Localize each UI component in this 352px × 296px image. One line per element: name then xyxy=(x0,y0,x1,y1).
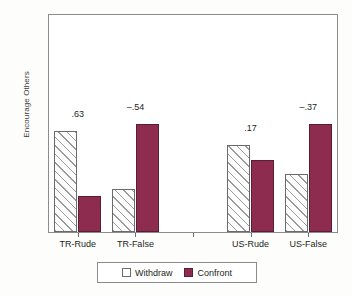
value-label-tr-false: –.54 xyxy=(127,102,145,112)
bar-confront-tr-false xyxy=(136,124,159,233)
bar-confront-us-rude xyxy=(251,160,274,232)
value-label-us-rude: .17 xyxy=(244,123,257,133)
bars-container: .63–.54.17–.37 xyxy=(49,15,337,232)
legend-label-withdraw: Withdraw xyxy=(135,268,173,278)
bar-withdraw-us-false xyxy=(285,174,308,232)
x-tick-mark xyxy=(135,233,136,237)
bar-withdraw-tr-false xyxy=(112,189,135,232)
bar-confront-tr-rude xyxy=(78,196,101,232)
x-tick-mark xyxy=(251,233,252,237)
legend-swatch-confront xyxy=(184,268,193,277)
legend-swatch-withdraw xyxy=(122,268,131,277)
bar-chart-figure: Encourage Others 65.554.543.53 .63–.54.1… xyxy=(0,0,352,296)
x-tick-mark xyxy=(193,233,194,237)
bar-withdraw-tr-rude xyxy=(54,131,77,232)
x-tick-label: TR-False xyxy=(117,239,154,249)
chart-legend: Withdraw Confront xyxy=(97,262,257,283)
value-label-us-false: –.37 xyxy=(299,102,317,112)
bar-withdraw-us-rude xyxy=(227,145,250,232)
legend-label-confront: Confront xyxy=(197,268,232,278)
y-axis-title: Encourage Others xyxy=(22,35,31,175)
legend-item-confront: Confront xyxy=(184,268,232,278)
x-tick-mark xyxy=(78,233,79,237)
bar-confront-us-false xyxy=(309,124,332,233)
x-tick-mark xyxy=(308,233,309,237)
legend-item-withdraw: Withdraw xyxy=(122,268,173,278)
value-label-tr-rude: .63 xyxy=(72,109,85,119)
x-tick-label: TR-Rude xyxy=(60,239,97,249)
x-tick-label: US-Rude xyxy=(232,239,269,249)
x-tick-label: US-False xyxy=(289,239,327,249)
